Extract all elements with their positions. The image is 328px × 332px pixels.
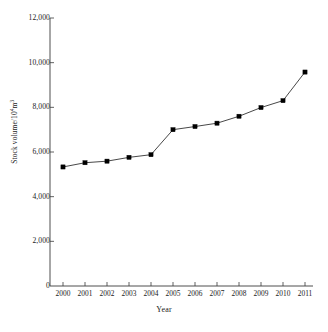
data-point-marker xyxy=(61,165,65,169)
data-point-marker xyxy=(83,161,87,165)
data-point-marker xyxy=(281,99,285,103)
tick-marks xyxy=(50,18,305,286)
series-line-stock-volume xyxy=(63,72,305,167)
data-point-marker xyxy=(215,121,219,125)
data-point-marker xyxy=(149,153,153,157)
data-point-marker xyxy=(127,155,131,159)
data-point-marker xyxy=(105,159,109,163)
data-point-marker xyxy=(171,128,175,132)
plot-area xyxy=(0,0,328,332)
axes xyxy=(50,18,313,286)
data-point-marker xyxy=(259,105,263,109)
line-chart: Stock volume/104m3 02,0004,0006,0008,000… xyxy=(0,0,328,332)
data-point-marker xyxy=(237,114,241,118)
series-markers xyxy=(61,70,307,169)
data-point-marker xyxy=(303,70,307,74)
data-point-marker xyxy=(193,124,197,128)
